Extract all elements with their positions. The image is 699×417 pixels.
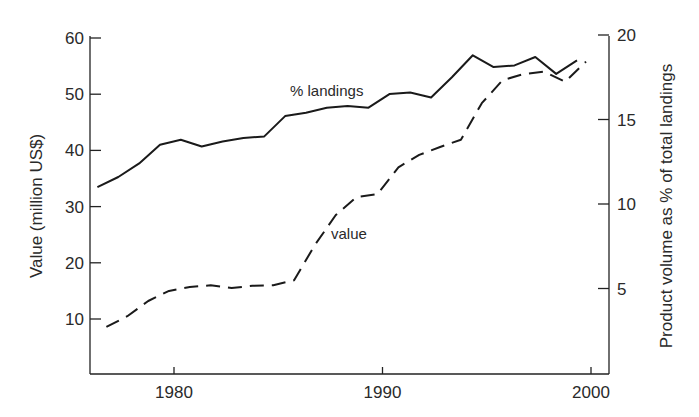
- y-left-tick-label: 10: [65, 310, 84, 329]
- y-axis-left-title: Value (million US$): [27, 134, 46, 278]
- y-left-tick-label: 60: [65, 29, 84, 48]
- annotation-landings: % landings: [290, 82, 363, 99]
- y-right-tick-label: 20: [617, 26, 636, 45]
- x-tick-label: 1980: [155, 383, 193, 402]
- x-tick-label: 2000: [572, 383, 610, 402]
- y-right-tick-label: 15: [617, 111, 636, 130]
- y-right-tick-label: 5: [617, 280, 626, 299]
- line-chart: 1020304050605101520198019902000 % landin…: [0, 0, 699, 417]
- y-left-tick-label: 20: [65, 254, 84, 273]
- y-left-tick-label: 50: [65, 85, 84, 104]
- annotation-value: value: [331, 225, 367, 242]
- series-value-line: [106, 62, 586, 327]
- y-left-tick-label: 40: [65, 141, 84, 160]
- y-right-tick-label: 10: [617, 195, 636, 214]
- series-landings-line: [97, 55, 577, 187]
- y-axis-right-title: Product volume as % of total landings: [657, 64, 676, 348]
- x-tick-label: 1990: [364, 383, 402, 402]
- y-left-tick-label: 30: [65, 198, 84, 217]
